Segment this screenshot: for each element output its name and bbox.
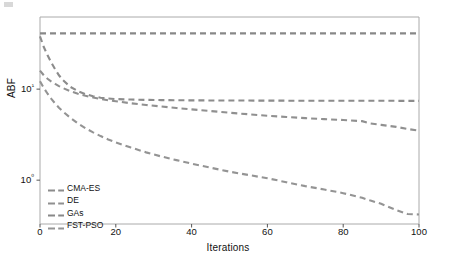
x-tick-label: 80 [328,226,358,237]
y-tick-label: 10⁰ [8,174,34,185]
legend-swatch-icon [48,195,64,206]
legend-label: DE [67,195,79,205]
legend-item-gas[interactable]: GAs [48,207,140,218]
chart-legend: CMA-ESDEGAsFST-PSO [48,182,140,232]
x-tick-label: 100 [404,226,434,237]
x-axis-label: Iterations [0,242,456,253]
legend-item-cma-es[interactable]: CMA-ES [48,182,140,193]
series-line-cma-es [40,36,419,100]
legend-swatch-icon [48,207,64,218]
legend-label: FST-PSO [67,220,103,230]
legend-item-de[interactable]: DE [48,195,140,206]
y-tick-label: 10¹ [8,83,34,94]
x-tick-label: 60 [252,226,282,237]
legend-swatch-icon [48,220,64,231]
legend-swatch-icon [48,182,64,193]
x-tick-label: 40 [177,226,207,237]
legend-item-fst-pso[interactable]: FST-PSO [48,220,140,231]
legend-label: CMA-ES [67,183,100,193]
legend-label: GAs [67,208,84,218]
chart-root: ABF Iterations 020406080100 10¹10⁰ CMA-E… [0,0,456,262]
